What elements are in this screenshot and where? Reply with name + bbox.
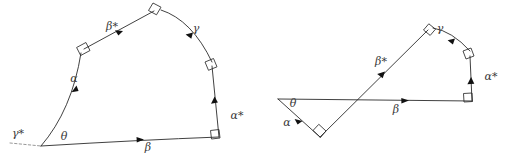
label-alpha-right: α (283, 116, 291, 129)
arrow-beta-star-right (377, 72, 385, 79)
arrow-gamma-right (448, 39, 455, 45)
label-beta-left: β (144, 141, 151, 154)
edge-beta-star-right (320, 30, 428, 137)
label-alpha-star-left: α* (231, 109, 244, 122)
gamma-star-dashed-tail (10, 143, 41, 146)
right-diagram: θ α β β* γ α* (278, 22, 498, 138)
arrow-beta (137, 137, 145, 143)
geometry-diagram-svg: γ* θ α β* γ α* β (0, 0, 519, 166)
label-alpha-left: α (70, 72, 78, 85)
label-theta-left: θ (61, 130, 68, 143)
label-beta-star-right: β* (374, 55, 387, 68)
figure-root: γ* θ α β* γ α* β (0, 0, 519, 166)
right-angle-marker-top-left (77, 43, 90, 56)
edge-beta (41, 137, 219, 146)
edge-beta-star (84, 11, 154, 49)
label-beta-star-left: β* (105, 20, 118, 33)
right-angle-marker-lower-left (313, 124, 326, 137)
left-diagram: γ* θ α β* γ α* β (10, 3, 244, 154)
edge-gamma (161, 10, 212, 62)
arrow-beta-right (401, 98, 409, 104)
label-beta-right: β (392, 103, 399, 116)
label-theta-right: θ (290, 97, 297, 110)
arrow-alpha-star-right (467, 77, 474, 84)
arrow-alpha-star (211, 97, 218, 104)
label-gamma-left: γ (193, 22, 200, 35)
label-gamma-right: γ (437, 22, 444, 35)
right-angle-marker-upper-apex (424, 24, 436, 36)
label-alpha-star-right: α* (485, 70, 498, 83)
edge-beta-right (278, 99, 472, 101)
label-gamma-star-left: γ* (12, 127, 25, 140)
